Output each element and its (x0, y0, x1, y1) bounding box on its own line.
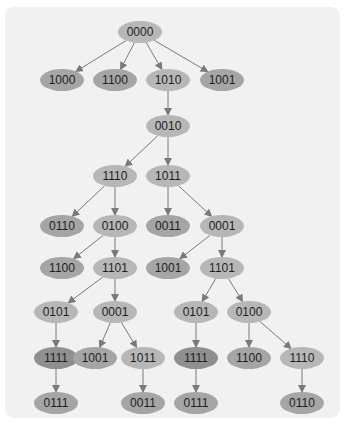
state-tree-diagram: 0000100011001010100100101110101101100100… (0, 0, 344, 432)
node-label: 1100 (49, 261, 75, 275)
edge-arrow (228, 279, 242, 302)
node-label: 0010 (155, 119, 182, 133)
tree-node-0000: 0000 (118, 21, 162, 43)
tree-node-1111: 1111 (174, 347, 218, 369)
node-label: 0011 (155, 219, 181, 233)
node-label: 1011 (130, 351, 156, 365)
tree-node-1100: 1100 (227, 347, 271, 369)
node-label: 0100 (102, 219, 129, 233)
tree-node-1011: 1011 (146, 165, 190, 187)
node-label: 1101 (209, 261, 235, 275)
tree-node-0001: 0001 (93, 301, 137, 323)
tree-node-0110: 0110 (40, 215, 84, 237)
edges-layer (56, 40, 302, 392)
edge-arrow (125, 136, 157, 167)
node-label: 0110 (289, 396, 315, 410)
node-label: 0100 (236, 305, 263, 319)
tree-node-1100: 1100 (93, 69, 137, 91)
tree-node-0100: 0100 (93, 215, 137, 237)
edge-arrow (76, 41, 126, 72)
tree-node-1001: 1001 (200, 69, 244, 91)
edge-arrow (146, 43, 162, 70)
tree-node-0101: 0101 (34, 301, 78, 323)
edge-arrow (74, 235, 104, 258)
edge-arrow (202, 279, 216, 302)
tree-node-0111: 0111 (174, 392, 218, 414)
nodes-layer: 0000100011001010100100101110101101100100… (34, 21, 324, 414)
edge-arrow (121, 43, 135, 70)
edge-arrow (72, 186, 104, 217)
node-label: 1101 (102, 261, 128, 275)
tree-node-1001: 1001 (146, 257, 190, 279)
node-label: 1000 (49, 73, 76, 87)
tree-node-0110: 0110 (280, 392, 324, 414)
edge-arrow (100, 323, 111, 348)
tree-node-1101: 1101 (200, 257, 244, 279)
tree-node-0101: 0101 (174, 301, 218, 323)
tree-node-0100: 0100 (227, 301, 271, 323)
tree-node-1110: 1110 (280, 347, 324, 369)
node-label: 1010 (155, 73, 182, 87)
node-label: 0101 (183, 305, 210, 319)
node-label: 1111 (44, 351, 68, 365)
tree-node-0011: 0011 (146, 215, 190, 237)
tree-node-1011: 1011 (121, 347, 165, 369)
tree-node-0010: 0010 (146, 115, 190, 137)
node-label: 1110 (290, 351, 315, 365)
node-label: 1011 (155, 169, 181, 183)
node-label: 1001 (82, 351, 109, 365)
edge-arrow (68, 277, 102, 303)
tree-node-0111: 0111 (34, 392, 78, 414)
node-label: 1111 (184, 351, 208, 365)
node-label: 1001 (209, 73, 236, 87)
node-label: 1100 (102, 73, 128, 87)
node-label: 0000 (127, 25, 154, 39)
tree-node-1000: 1000 (40, 69, 84, 91)
edge-arrow (178, 186, 211, 217)
edge-arrow (121, 323, 136, 348)
edge-arrow (260, 322, 291, 349)
tree-node-0001: 0001 (200, 215, 244, 237)
node-label: 0001 (209, 219, 236, 233)
tree-node-1100: 1100 (40, 257, 84, 279)
tree-node-1110: 1110 (93, 165, 137, 187)
tree-node-1001: 1001 (73, 347, 117, 369)
node-label: 1110 (103, 169, 128, 183)
node-label: 0101 (43, 305, 70, 319)
tree-node-0011: 0011 (121, 392, 165, 414)
node-label: 1100 (236, 351, 262, 365)
node-label: 0001 (102, 305, 129, 319)
node-label: 0110 (49, 219, 75, 233)
node-label: 1001 (155, 261, 182, 275)
node-label: 0111 (184, 396, 209, 410)
node-label: 0011 (130, 396, 156, 410)
tree-node-1111: 1111 (34, 347, 78, 369)
tree-node-1010: 1010 (146, 69, 190, 91)
edge-arrow (154, 40, 207, 71)
node-label: 0111 (44, 396, 69, 410)
edge-arrow (180, 235, 210, 258)
tree-node-1101: 1101 (93, 257, 137, 279)
